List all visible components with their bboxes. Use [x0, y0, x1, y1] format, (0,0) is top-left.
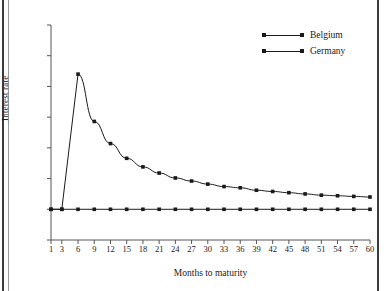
x-tick-label: 24 — [171, 245, 180, 253]
x-tick-label: 51 — [317, 245, 326, 253]
x-tick-label: 12 — [106, 245, 115, 253]
chart-figure: Interest rate 00.050.100.150.200.250.300… — [0, 0, 389, 291]
x-tick-label: 54 — [333, 245, 342, 253]
x-tick-label: 27 — [187, 245, 196, 253]
x-tick-label: 18 — [139, 245, 148, 253]
x-tick-label: 9 — [92, 245, 96, 253]
x-tick-label: 1 — [49, 245, 53, 253]
x-tick-label: 57 — [350, 245, 359, 253]
x-tick-label: 60 — [366, 245, 375, 253]
x-tick-label: 36 — [236, 245, 245, 253]
x-tick-label: 30 — [204, 245, 213, 253]
legend-item-belgium[interactable]: Belgium — [262, 27, 345, 43]
legend-label: Belgium — [310, 30, 343, 40]
x-tick-label: 15 — [122, 245, 131, 253]
legend-item-germany[interactable]: Germany — [262, 43, 345, 59]
x-tick-label: 6 — [76, 245, 80, 253]
x-tick-label: 45 — [285, 245, 294, 253]
x-axis-title: Months to maturity — [51, 268, 370, 278]
x-tick-label: 39 — [252, 245, 261, 253]
x-tick-label: 3 — [60, 245, 64, 253]
legend-key-icon — [262, 46, 304, 56]
x-tick-label: 33 — [220, 245, 229, 253]
chart-legend: BelgiumGermany — [262, 27, 345, 59]
x-tick-label: 42 — [268, 245, 277, 253]
x-tick-label: 21 — [155, 245, 164, 253]
x-tick-label: 48 — [301, 245, 310, 253]
legend-label: Germany — [310, 46, 345, 56]
legend-key-icon — [262, 30, 304, 40]
